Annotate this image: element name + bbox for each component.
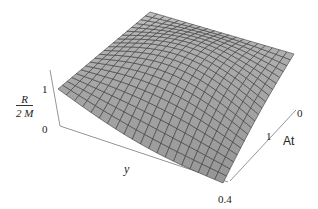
z-axis-label: R 2 M [16,93,33,119]
z-label-denominator: 2 M [16,106,33,119]
y-tick-0: 0 [297,108,303,119]
y-tick-1: 1 [266,131,272,142]
z-axis [50,70,60,126]
x-axis-label: y [124,163,129,175]
x-tick-0.4: 0.4 [218,194,232,205]
z-tick-0: 0 [42,124,48,135]
surface-mesh [58,12,294,183]
z-label-numerator: R [16,93,33,106]
y-axis-label: At [283,135,294,147]
surface-plot [0,0,318,209]
z-tick-1: 1 [42,84,48,95]
